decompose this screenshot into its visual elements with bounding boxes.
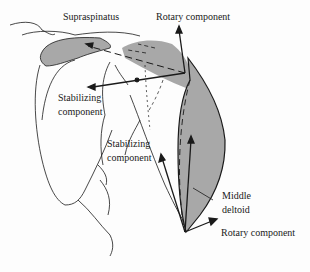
label-stabilizing-component-mid-2: component bbox=[107, 152, 151, 164]
label-rotary-component-top: Rotary component bbox=[156, 11, 230, 23]
shoulder-diagram: Supraspinatus Rotary component Stabilizi… bbox=[0, 0, 310, 272]
label-stabilizing-component-top-1: Stabilizing bbox=[58, 92, 101, 104]
label-supraspinatus: Supraspinatus bbox=[63, 11, 119, 23]
label-stabilizing-component-mid-1: Stabilizing bbox=[107, 138, 150, 150]
label-rotary-component-bottom: Rotary component bbox=[221, 227, 295, 239]
label-stabilizing-component-top-2: component bbox=[58, 106, 102, 118]
label-middle-deltoid-2: deltoid bbox=[222, 204, 250, 216]
supraspinatus-muscle bbox=[40, 38, 110, 66]
label-middle-deltoid-1: Middle bbox=[222, 190, 251, 202]
